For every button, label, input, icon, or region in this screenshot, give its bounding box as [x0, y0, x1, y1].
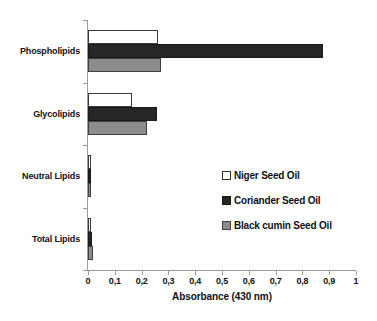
bar-total-lipids-series-1	[88, 232, 92, 246]
bar-phospholipids-series-2	[88, 58, 161, 72]
y-axis-tick	[83, 208, 88, 209]
x-axis-tick-label: 0,2	[136, 276, 148, 286]
x-axis-tick-label: 0,4	[189, 276, 201, 286]
x-axis-tick-label: 0,7	[270, 276, 282, 286]
x-axis-tick-label: 0,9	[323, 276, 335, 286]
legend-label: Coriander Seed Oil	[234, 195, 320, 206]
bar-phospholipids-series-1	[88, 44, 323, 58]
category-label-neutral-lipids: Neutral Lipids	[0, 171, 80, 181]
x-axis-title: Absorbance (430 nm)	[88, 291, 356, 302]
y-axis-tick	[83, 20, 88, 21]
bar-glycolipids-series-2	[88, 121, 147, 135]
category-label-total-lipids: Total Lipids	[0, 234, 80, 244]
x-axis-tick	[195, 271, 196, 275]
x-axis-tick	[222, 271, 223, 275]
chart-legend: Niger Seed OilCoriander Seed OilBlack cu…	[222, 163, 332, 238]
legend-item-coriander-seed-oil: Coriander Seed Oil	[222, 188, 332, 213]
x-axis-tick	[302, 271, 303, 275]
y-axis-tick	[83, 145, 88, 146]
legend-item-black-cumin-seed-oil: Black cumin Seed Oil	[222, 213, 332, 238]
bar-phospholipids-series-0	[88, 30, 158, 44]
x-axis-tick	[142, 271, 143, 275]
bar-total-lipids-series-0	[88, 218, 91, 232]
bar-glycolipids-series-1	[88, 107, 157, 121]
bar-glycolipids-series-0	[88, 93, 132, 107]
x-axis-tick	[356, 271, 357, 275]
legend-swatch-icon	[222, 221, 231, 230]
x-axis-tick	[115, 271, 116, 275]
legend-label: Niger Seed Oil	[234, 170, 300, 181]
x-axis-tick-label: 0,8	[296, 276, 308, 286]
bar-neutral-lipids-series-1	[88, 169, 91, 183]
bar-neutral-lipids-series-0	[88, 155, 91, 169]
bar-total-lipids-series-2	[88, 246, 93, 260]
bar-chart: PhospholipidsGlycolipidsNeutral LipidsTo…	[0, 0, 377, 321]
category-label-phospholipids: Phospholipids	[0, 46, 80, 56]
legend-swatch-icon	[222, 196, 231, 205]
x-axis-tick	[276, 271, 277, 275]
x-axis-tick-label: 0	[86, 276, 91, 286]
y-axis-tick	[83, 83, 88, 84]
x-axis-tick-label: 0,6	[243, 276, 255, 286]
legend-label: Black cumin Seed Oil	[234, 220, 332, 231]
bar-neutral-lipids-series-2	[88, 183, 91, 197]
legend-swatch-icon	[222, 171, 231, 180]
category-label-glycolipids: Glycolipids	[0, 109, 80, 119]
x-axis-tick	[88, 271, 89, 275]
x-axis-tick-label: 0,1	[109, 276, 121, 286]
x-axis-tick-label: 1	[354, 276, 359, 286]
x-axis-tick-label: 0,3	[162, 276, 174, 286]
x-axis-tick-label: 0,5	[216, 276, 228, 286]
x-axis-tick	[329, 271, 330, 275]
x-axis-tick	[249, 271, 250, 275]
x-axis-tick	[168, 271, 169, 275]
legend-item-niger-seed-oil: Niger Seed Oil	[222, 163, 332, 188]
